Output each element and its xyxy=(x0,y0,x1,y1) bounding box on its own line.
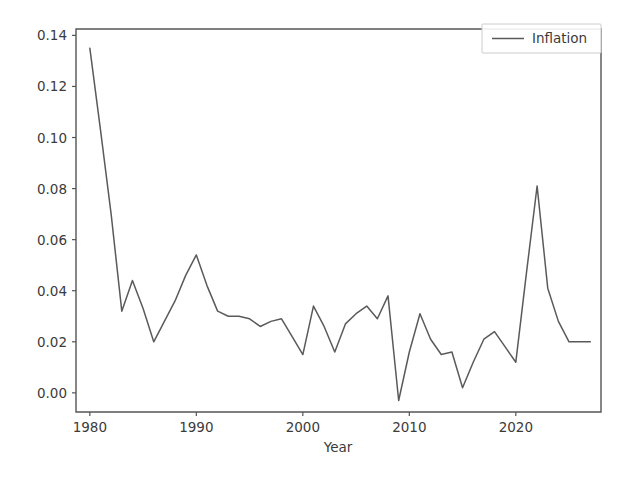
y-tick-label-0.12: 0.12 xyxy=(37,78,67,94)
y-tick-label-0.08: 0.08 xyxy=(37,181,67,197)
y-tick-label-0.02: 0.02 xyxy=(37,334,67,350)
x-tick-label-1990: 1990 xyxy=(179,419,213,435)
x-axis-title: Year xyxy=(323,439,353,455)
x-tick-label-1980: 1980 xyxy=(73,419,107,435)
x-tick-label-2000: 2000 xyxy=(286,419,320,435)
legend-label-inflation: Inflation xyxy=(532,30,587,46)
y-tick-label-0.04: 0.04 xyxy=(37,283,67,299)
y-tick-label-0.10: 0.10 xyxy=(37,130,67,146)
legend[interactable]: Inflation xyxy=(482,24,601,53)
y-tick-label-0.00: 0.00 xyxy=(37,385,67,401)
x-tick-label-2020: 2020 xyxy=(499,419,533,435)
x-axis-tick-labels: 19801990200020102020 xyxy=(73,419,533,435)
inflation-line-chart: 0.000.020.040.060.080.100.120.14 1980199… xyxy=(0,0,628,479)
y-tick-label-0.06: 0.06 xyxy=(37,232,67,248)
figure-canvas: 0.000.020.040.060.080.100.120.14 1980199… xyxy=(0,0,628,479)
y-tick-label-0.14: 0.14 xyxy=(37,27,67,43)
x-tick-label-2010: 2010 xyxy=(392,419,426,435)
y-axis-tick-labels: 0.000.020.040.060.080.100.120.14 xyxy=(37,27,67,400)
plot-area-background xyxy=(76,29,601,412)
